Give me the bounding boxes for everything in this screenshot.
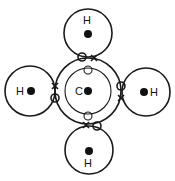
hydrogen-left-nucleus-icon: [27, 87, 35, 95]
hydrogen-top-nucleus-icon: [84, 30, 92, 38]
carbon-nucleus-icon: [84, 87, 92, 95]
carbon-inner-electron-icon: [84, 66, 92, 74]
hydrogen-bond-electron-icon: [83, 122, 89, 128]
hydrogen-right-nucleus-icon: [140, 88, 148, 96]
hydrogen-left-label: H: [16, 85, 24, 97]
methane-diagram: C H H H H: [0, 0, 175, 181]
carbon-label: C: [75, 85, 83, 97]
hydrogen-top-label: H: [83, 14, 91, 26]
diagram-canvas: C H H H H: [0, 0, 175, 181]
hydrogen-right-label: H: [150, 86, 158, 98]
hydrogen-bottom-label: H: [84, 157, 92, 169]
hydrogen-bottom-nucleus-icon: [85, 147, 93, 155]
carbon-inner-electron-icon: [84, 112, 92, 120]
